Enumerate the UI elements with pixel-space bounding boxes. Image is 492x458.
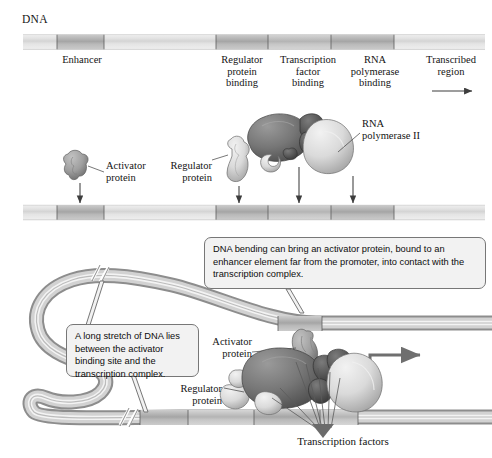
promoter-segments-bottom [140,410,358,425]
label-regulator-protein-bottom: Regulator protein [150,383,222,406]
label-transcription-factors: Transcription factors [268,436,418,448]
label-transcribed-region: Transcribed region [412,54,490,77]
segment-transcribed-region [394,35,485,50]
label-transcription-factor-binding: Transcription factor binding [271,54,345,89]
segment-regulator-binding [216,35,268,50]
label-regulator-protein-middle: Regulator protein [140,160,212,183]
dna-label: DNA [22,14,48,26]
label-rna-polymerase-binding: RNA polymerase binding [337,54,413,89]
segment-tf-binding [268,35,331,50]
dna-bending-callout: DNA bending can bring an activator prote… [204,237,486,289]
segment-enhancer-bottom [278,316,322,331]
segment-enhancer [57,35,104,50]
label-rna-polymerase-ii: RNA polymerase II [362,118,470,141]
activator-leader-line-middle [88,166,104,172]
rna-polymerase-ii-complex [248,114,354,174]
label-regulator-protein-binding: Regulator protein binding [208,54,276,89]
label-activator-protein-bottom: Activator protein [186,336,252,359]
long-stretch-callout: A long stretch of DNA lies between the a… [66,324,199,377]
regulator-protein-blob-middle [227,136,249,181]
activator-protein-blob-middle [64,150,89,179]
figure-canvas: DNA Enhancer Regulator protein binding T… [0,0,492,458]
segment-pol-binding [331,35,394,50]
regulator-leader-line-middle [212,155,228,160]
label-enhancer: Enhancer [38,54,126,66]
